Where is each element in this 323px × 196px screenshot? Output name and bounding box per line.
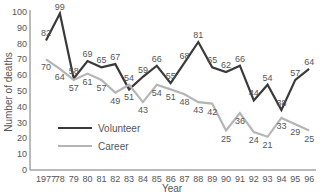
data-label: 44 (249, 88, 259, 98)
data-label: 70 (41, 62, 51, 72)
data-label: 61 (83, 77, 93, 87)
data-label: 68 (179, 51, 189, 61)
legend-label: Career (98, 141, 129, 152)
x-tick-label: 79 (69, 174, 79, 184)
line-chart: 0102030405060708090100197778798081828384… (0, 0, 323, 196)
x-tick-label: 81 (96, 174, 106, 184)
data-label: 48 (179, 97, 189, 107)
data-label: 25 (304, 134, 314, 144)
x-axis-label: Year (162, 183, 183, 194)
data-label: 43 (193, 105, 203, 115)
y-tick-label: 50 (17, 86, 27, 96)
data-label: 54 (124, 73, 134, 83)
data-label: 67 (110, 52, 120, 62)
x-tick-label: 93 (263, 174, 273, 184)
series-line-volunteer (46, 14, 309, 110)
data-label: 33 (276, 121, 286, 131)
x-tick-label: 80 (83, 174, 93, 184)
x-tick-label: 82 (110, 174, 120, 184)
x-tick-label: 83 (124, 174, 134, 184)
y-tick-label: 40 (17, 102, 27, 112)
data-label: 21 (263, 140, 273, 150)
data-label: 29 (290, 127, 300, 137)
data-label: 49 (110, 96, 120, 106)
y-tick-label: 90 (17, 23, 27, 33)
data-label: 57 (69, 83, 79, 93)
data-label: 57 (290, 68, 300, 78)
data-label: 57 (96, 83, 106, 93)
x-tick-label: 85 (152, 174, 162, 184)
data-label: 38 (276, 98, 286, 108)
axes: 0102030405060708090100197778798081828384… (12, 7, 316, 184)
data-label: 51 (124, 92, 134, 102)
data-label: 65 (96, 55, 106, 65)
data-label: 24 (249, 135, 259, 145)
data-label: 66 (235, 54, 245, 64)
y-tick-label: 70 (17, 54, 27, 64)
data-label: 54 (263, 73, 273, 83)
data-label: 99 (55, 2, 65, 12)
data-label: 66 (152, 54, 162, 64)
x-tick-label: 91 (235, 174, 245, 184)
x-tick-label: 94 (276, 174, 286, 184)
x-tick-label: 84 (138, 174, 148, 184)
data-label: 42 (207, 107, 217, 117)
x-tick-label: 96 (304, 174, 314, 184)
y-tick-label: 60 (17, 70, 27, 80)
data-label: 59 (138, 65, 148, 75)
data-label: 64 (304, 57, 314, 67)
x-tick-label: 78 (55, 174, 65, 184)
x-tick-label: 92 (249, 174, 259, 184)
data-label: 55 (166, 71, 176, 81)
data-label: 54 (152, 88, 162, 98)
x-tick-label: 1977 (36, 174, 56, 184)
x-tick-label: 90 (221, 174, 231, 184)
data-label: 82 (41, 28, 51, 38)
legend: VolunteerCareer (58, 123, 141, 152)
x-tick-label: 88 (193, 174, 203, 184)
data-label: 62 (221, 60, 231, 70)
y-tick-label: 0 (22, 165, 27, 175)
data-label: 36 (235, 116, 245, 126)
y-tick-label: 30 (17, 118, 27, 128)
data-label: 81 (193, 30, 203, 40)
data-label: 25 (221, 134, 231, 144)
y-tick-label: 80 (17, 39, 27, 49)
y-tick-label: 10 (17, 149, 27, 159)
legend-label: Volunteer (98, 123, 141, 134)
data-label: 64 (55, 72, 65, 82)
data-label: 65 (207, 55, 217, 65)
x-tick-label: 89 (207, 174, 217, 184)
data-label: 58 (69, 66, 79, 76)
data-label: 69 (83, 49, 93, 59)
data-label: 43 (138, 105, 148, 115)
y-axis-label: Number of deaths (3, 52, 14, 132)
x-tick-label: 95 (290, 174, 300, 184)
y-tick-label: 100 (12, 7, 27, 17)
y-tick-label: 20 (17, 133, 27, 143)
data-label: 51 (166, 92, 176, 102)
